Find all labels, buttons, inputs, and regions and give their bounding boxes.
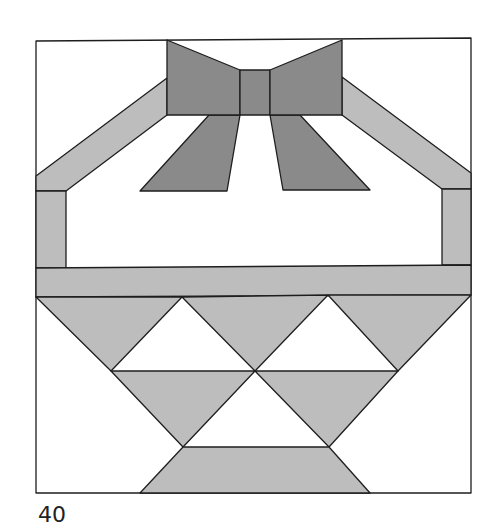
basket-post-left bbox=[36, 191, 66, 268]
bow-knot bbox=[240, 70, 270, 115]
quilt-block-diagram bbox=[0, 0, 490, 532]
basket-post-right bbox=[442, 189, 471, 265]
figure-number-label: 40 bbox=[38, 502, 66, 527]
basket-rim bbox=[36, 265, 471, 297]
